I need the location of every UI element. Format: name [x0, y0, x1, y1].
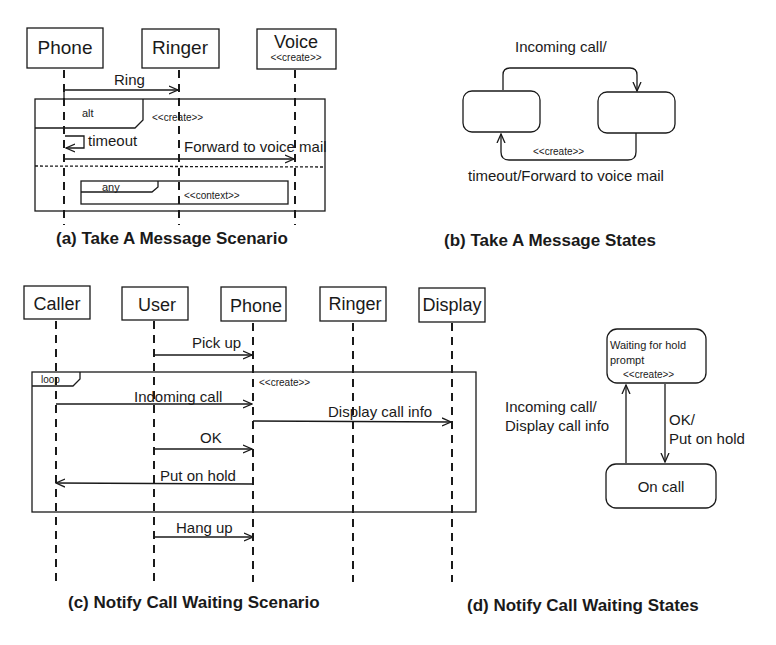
- caption-panel-c: (c) Notify Call Waiting Scenario: [68, 593, 320, 612]
- transition-arrow-incoming: [503, 68, 637, 91]
- message-label-incoming: Indoming call: [134, 388, 222, 405]
- transition-label-ok-line2: Put on hold: [669, 430, 745, 447]
- fragment-operator-alt: alt: [82, 107, 94, 119]
- state-label-waiting-line2: prompt: [610, 354, 644, 366]
- lifeline-label-caller: Caller: [33, 294, 80, 314]
- message-label-pickup: Pick up: [192, 334, 241, 351]
- alt-separator: [35, 166, 325, 167]
- lifeline-label-ringer: Ringer: [152, 37, 209, 58]
- state-label-on-call: On call: [638, 478, 685, 495]
- caption-panel-a: (a) Take A Message Scenario: [56, 229, 288, 248]
- lifeline-label-user: User: [138, 295, 176, 315]
- transition-label-incoming-line2: Display call info: [505, 417, 609, 434]
- panel-d-state-diagram: Waiting for hold prompt <<create>> On ca…: [467, 329, 745, 615]
- fragment-operator-any: any: [102, 181, 120, 193]
- panel-b-state-diagram: Incoming call/ <<create>> timeout/Forwar…: [444, 38, 675, 250]
- fragment-stereotype-context: <<context>>: [184, 190, 240, 201]
- message-label-timeout: timeout: [88, 132, 138, 149]
- caption-panel-d: (d) Notify Call Waiting States: [467, 596, 699, 615]
- transition-label-timeout: timeout/Forward to voice mail: [468, 167, 664, 184]
- message-label-put-on-hold: Put on hold: [160, 467, 236, 484]
- transition-label-ok-line1: OK/: [669, 411, 696, 428]
- panel-a-sequence-diagram: Phone Ringer Voice <<create>> Ring alt <…: [27, 28, 336, 248]
- state-left: [463, 91, 540, 132]
- lifeline-label-voice: Voice: [274, 32, 318, 52]
- fragment-stereotype-create: <<create>>: [152, 112, 203, 123]
- transition-stereotype-create: <<create>>: [533, 146, 584, 157]
- message-label-ring: Ring: [114, 71, 145, 88]
- message-label-display-info: Display call info: [328, 403, 432, 420]
- message-arrow-timeout: [65, 136, 84, 148]
- message-arrow-display-info: [253, 421, 451, 422]
- lifeline-stereotype-voice: <<create>>: [270, 52, 321, 63]
- state-label-waiting-line1: Waiting for hold: [610, 339, 686, 351]
- lifeline-label-phone: Phone: [38, 37, 93, 58]
- state-right: [598, 92, 675, 133]
- message-label-ok: OK: [200, 429, 222, 446]
- fragment-operator-loop: loop: [41, 374, 60, 385]
- state-stereotype-create: <<create>>: [623, 369, 674, 380]
- transition-label-incoming: Incoming call/: [515, 38, 608, 55]
- message-label-hang-up: Hang up: [176, 519, 233, 536]
- fragment-stereotype-create: <<create>>: [259, 377, 310, 388]
- lifeline-label-ringer: Ringer: [328, 294, 381, 314]
- lifeline-label-display: Display: [422, 295, 481, 315]
- transition-label-incoming-line1: Incoming call/: [505, 398, 598, 415]
- panel-c-sequence-diagram: Caller User Phone Ringer Display Pick up…: [24, 286, 485, 612]
- caption-panel-b: (b) Take A Message States: [444, 231, 656, 250]
- lifeline-label-phone: Phone: [230, 296, 282, 316]
- message-label-forward: Forward to voice mail: [184, 138, 327, 155]
